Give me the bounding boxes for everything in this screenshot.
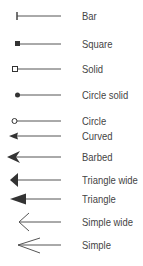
line-end-label: Circle solid [82, 88, 128, 102]
line-end-option-triangle-wide[interactable]: Triangle wide [0, 170, 143, 190]
line-end-label: Curved [82, 129, 112, 143]
line-end-option-simple-wide[interactable]: Simple wide [0, 212, 143, 232]
line-end-label: Simple [82, 238, 111, 252]
hollow-square-end-icon [0, 59, 70, 79]
curved-arrow-end-icon [0, 126, 70, 146]
line-end-option-simple[interactable]: Simple [0, 235, 143, 255]
line-end-option-solid[interactable]: Solid [0, 59, 143, 79]
square-end-icon [0, 34, 70, 54]
line-end-label: Triangle [82, 192, 116, 206]
line-end-option-curved[interactable]: Curved [0, 126, 143, 146]
line-end-label: Barbed [82, 150, 112, 164]
line-end-option-circle-solid[interactable]: Circle solid [0, 85, 143, 105]
simple-arrow-end-icon [0, 235, 70, 257]
wide-triangle-arrow-end-icon [0, 170, 70, 190]
line-end-label: Bar [82, 9, 97, 23]
line-end-option-barbed[interactable]: Barbed [0, 147, 143, 167]
line-end-option-square[interactable]: Square [0, 34, 143, 54]
bar-end-icon [0, 6, 70, 26]
wide-simple-arrow-end-icon [0, 212, 70, 232]
filled-circle-end-icon [0, 85, 70, 105]
line-end-label: Square [82, 37, 112, 51]
line-end-label: Solid [82, 62, 103, 76]
line-end-label: Simple wide [82, 215, 133, 229]
line-end-option-triangle[interactable]: Triangle [0, 189, 143, 209]
barbed-arrow-end-icon [0, 147, 70, 167]
line-end-label: Triangle wide [82, 173, 138, 187]
triangle-arrow-end-icon [0, 189, 70, 209]
line-end-option-bar[interactable]: Bar [0, 6, 143, 26]
